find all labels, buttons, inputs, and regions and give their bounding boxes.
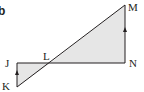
- part-label: b: [0, 4, 5, 18]
- vertex-label-j: J: [5, 57, 10, 69]
- vertex-label-l: L: [43, 50, 50, 62]
- vertex-label-n: N: [129, 57, 137, 69]
- vertex-label-k: K: [2, 80, 10, 92]
- similar-triangles-diagram: b J K L M N: [0, 0, 144, 92]
- vertex-label-m: M: [128, 1, 138, 13]
